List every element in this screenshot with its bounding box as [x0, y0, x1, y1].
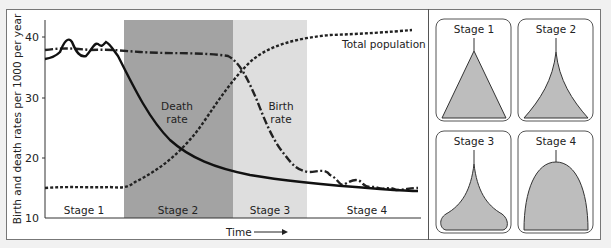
- total-population-label: Total population: [341, 38, 426, 50]
- stage-2-label: Stage 2: [158, 204, 198, 216]
- birth-rate-label-2: rate: [270, 113, 291, 125]
- pyramid-stage-2: Stage 2: [518, 19, 593, 121]
- y-ticks: 40 30 20 10: [25, 31, 45, 225]
- svg-text:Stage 4: Stage 4: [536, 135, 577, 147]
- birth-rate-label: Birth: [268, 100, 293, 112]
- stage-1-label: Stage 1: [64, 204, 104, 216]
- svg-text:Stage 1: Stage 1: [454, 23, 494, 35]
- tick-10: 10: [25, 212, 39, 225]
- death-rate-label: Death: [161, 100, 193, 112]
- tick-20: 20: [25, 152, 39, 165]
- death-rate-label-2: rate: [166, 113, 187, 125]
- time-arrow-icon: [254, 229, 288, 235]
- y-axis-label: Birth and death rates per 1000 per year: [11, 13, 23, 224]
- pyramid-stage-4: Stage 4: [518, 131, 593, 233]
- tick-30: 30: [25, 92, 39, 105]
- svg-text:Stage 3: Stage 3: [454, 135, 494, 147]
- stage-4-label: Stage 4: [347, 204, 388, 216]
- pyramid-stage-1: Stage 1: [436, 19, 511, 121]
- svg-text:Stage 2: Stage 2: [536, 23, 576, 35]
- dtm-chart: 40 30 20 10 Birth and death rates per 10…: [0, 0, 611, 248]
- stage-3-label: Stage 3: [250, 204, 290, 216]
- x-axis-label: Time: [225, 226, 252, 238]
- pyramid-stage-3: Stage 3: [436, 131, 511, 233]
- tick-40: 40: [25, 31, 39, 44]
